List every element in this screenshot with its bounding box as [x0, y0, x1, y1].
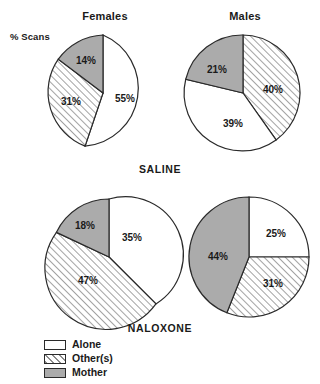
legend-label-alone: Alone — [72, 339, 101, 350]
row-label-naloxone: NALOXONE — [0, 322, 320, 334]
pie-slice-label-mother: 18% — [75, 220, 95, 231]
pie-chart-figure: % Scans Females Males 55% 31% 14% 40% 39… — [0, 0, 320, 384]
pie-chart-females-naloxone: 35% 47% 18% — [48, 196, 170, 318]
pie-slice-label-others: 31% — [61, 96, 81, 107]
pie-slice-label-alone: 55% — [115, 93, 135, 104]
pie-slice-label-alone: 25% — [266, 228, 286, 239]
column-title-males: Males — [200, 10, 290, 22]
pie-slice-label-others: 31% — [263, 278, 283, 289]
legend-item-others: Other(s) — [44, 352, 113, 365]
pie-slice-label-mother: 44% — [208, 251, 228, 262]
legend-label-others: Other(s) — [72, 353, 113, 364]
legend-item-mother: Mother — [44, 366, 113, 379]
pie-chart-males-naloxone: 25% 31% 44% — [186, 194, 312, 320]
pie-slice-label-alone: 39% — [223, 118, 243, 129]
pie-slice-label-others: 47% — [78, 275, 98, 286]
legend-swatch-alone — [44, 340, 66, 350]
legend-swatch-others — [44, 354, 66, 364]
row-label-saline: SALINE — [0, 163, 320, 175]
legend-item-alone: Alone — [44, 338, 113, 351]
legend-label-mother: Mother — [72, 367, 107, 378]
pie-slice-label-mother: 14% — [76, 55, 96, 66]
pie-chart-males-saline: 40% 39% 21% — [182, 32, 304, 154]
column-title-females: Females — [60, 10, 150, 22]
pie-slice-label-others: 40% — [263, 84, 283, 95]
legend: Alone Other(s) Mother — [44, 338, 113, 380]
pie-chart-females-saline: 55% 31% 14% — [42, 32, 164, 154]
pie-slice-label-alone: 35% — [122, 232, 142, 243]
legend-swatch-mother — [44, 368, 66, 378]
pie-slice-label-mother: 21% — [207, 64, 227, 75]
